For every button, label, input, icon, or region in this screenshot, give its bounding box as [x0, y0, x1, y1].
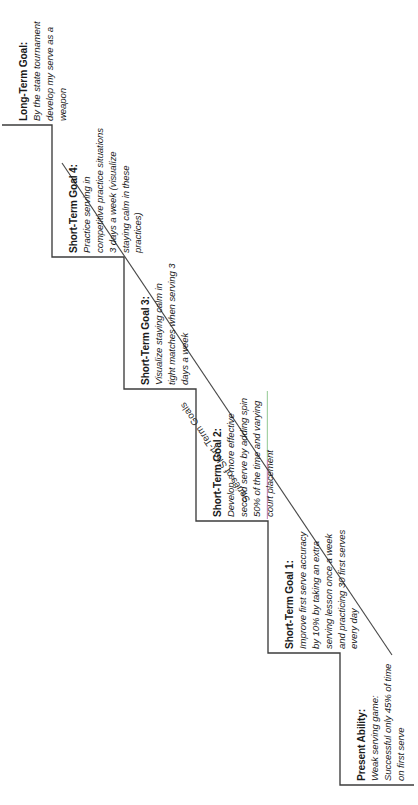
step-short-term-goal-2: Short-Term Goal 2: Develop a more effect…	[212, 389, 276, 517]
step-body: Weak serving game: Successful only 45% o…	[369, 655, 407, 781]
step-present-ability: Present Ability: Weak serving game: Succ…	[356, 655, 408, 781]
step-short-term-goal-1: Short-Term Goal 1: Improve first serve a…	[284, 523, 361, 649]
step-body: Visualize staying calm in tight matches …	[153, 263, 191, 385]
step-title: Present Ability:	[356, 655, 368, 781]
step-title: Short-Term Goal 1:	[284, 523, 296, 649]
step-long-term-goal: Long-Term Goal: By the state tournament …	[18, 9, 70, 121]
step-title: Long-Term Goal:	[18, 9, 30, 121]
step-body: Practice serving in competitive practice…	[81, 127, 145, 253]
step-body: Develop a more effective second serve by…	[225, 389, 276, 517]
step-body: Improve first serve accuracy by 10% by t…	[297, 523, 361, 649]
staircase-path	[2, 125, 414, 785]
step-short-term-goal-3: Short-Term Goal 3: Visualize staying cal…	[140, 263, 192, 385]
step-body: By the state tournament develop my serve…	[31, 9, 69, 121]
step-title: Short-Term Goal 2:	[212, 389, 224, 517]
step-short-term-goal-4: Short-Term Goal 4: Practice serving in c…	[68, 127, 145, 253]
step-title: Short-Term Goal 4:	[68, 127, 80, 253]
staircase-diagram: Series of Short-Term Goals Present Abili…	[0, 0, 418, 805]
diagram-stage: Series of Short-Term Goals Present Abili…	[0, 0, 418, 805]
step-title: Short-Term Goal 3:	[140, 263, 152, 385]
